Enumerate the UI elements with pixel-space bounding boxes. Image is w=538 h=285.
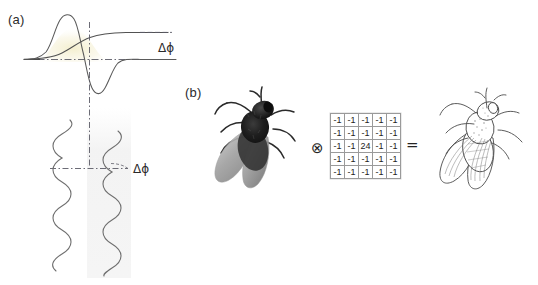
kernel-cell: -1 <box>387 153 401 166</box>
kernel-cell: -1 <box>331 127 345 140</box>
kernel-row: -1 -1 -1 -1 -1 <box>331 127 401 140</box>
kernel-body: -1 -1 -1 -1 -1 -1 -1 -1 -1 -1 -1 -1 24 -… <box>331 114 401 179</box>
kernel-cell: -1 <box>359 153 373 166</box>
kernel-cell: -1 <box>345 140 359 153</box>
kernel-cell: -1 <box>345 114 359 127</box>
phase-label-top: Δϕ <box>158 41 174 55</box>
kernel-cell: -1 <box>373 140 387 153</box>
kernel-cell: -1 <box>345 153 359 166</box>
background-band <box>87 108 131 278</box>
kernel-cell: -1 <box>359 166 373 179</box>
kernel-cell: -1 <box>331 140 345 153</box>
kernel-cell: -1 <box>359 114 373 127</box>
convolution-kernel-matrix: -1 -1 -1 -1 -1 -1 -1 -1 -1 -1 -1 -1 24 -… <box>330 113 401 179</box>
sinusoid-left-lower <box>53 158 71 271</box>
kernel-cell: -1 <box>387 127 401 140</box>
convolution-operator-icon: ⊗ <box>311 139 324 157</box>
kernel-cell: -1 <box>387 140 401 153</box>
kernel-cell: -1 <box>387 166 401 179</box>
sinusoid-left-upper <box>53 120 72 158</box>
phase-label-bottom: Δϕ <box>133 162 149 176</box>
kernel-row: -1 -1 -1 -1 -1 <box>331 153 401 166</box>
housefly-photograph <box>205 85 305 193</box>
kernel-cell: -1 <box>331 166 345 179</box>
housefly-edge-filtered-drawing <box>430 86 534 196</box>
kernel-cell: -1 <box>345 166 359 179</box>
kernel-cell: -1 <box>331 114 345 127</box>
kernel-row: -1 -1 -1 -1 -1 <box>331 114 401 127</box>
kernel-center-cell: 24 <box>359 140 373 153</box>
gaussian-envelope-shape <box>33 28 113 62</box>
kernel-cell: -1 <box>331 153 345 166</box>
kernel-cell: -1 <box>373 127 387 140</box>
equals-operator-icon: = <box>406 136 419 154</box>
figure-canvas: (a) (b) <box>0 0 538 285</box>
kernel-row: -1 -1 24 -1 -1 <box>331 140 401 153</box>
kernel-cell: -1 <box>359 127 373 140</box>
kernel-cell: -1 <box>345 127 359 140</box>
kernel-cell: -1 <box>373 114 387 127</box>
kernel-row: -1 -1 -1 -1 -1 <box>331 166 401 179</box>
kernel-cell: -1 <box>387 114 401 127</box>
kernel-cell: -1 <box>373 153 387 166</box>
kernel-cell: -1 <box>373 166 387 179</box>
